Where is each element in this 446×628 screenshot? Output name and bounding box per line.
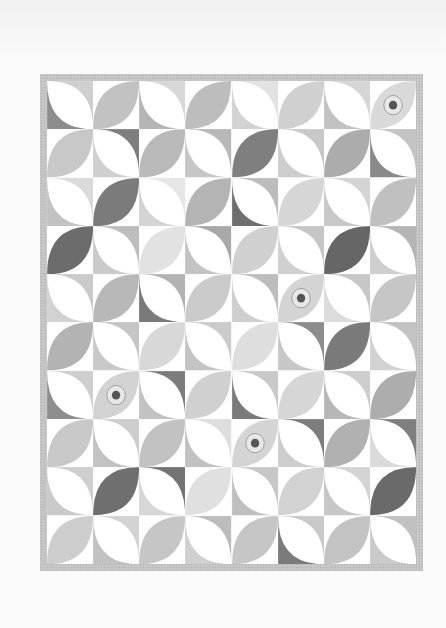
quilt-block	[93, 371, 139, 419]
petal-shape	[47, 226, 93, 274]
quilt-block	[370, 419, 416, 467]
petal-shape	[232, 419, 278, 467]
petal-shape	[93, 81, 139, 129]
petal-shape	[47, 129, 93, 177]
corner-triangles	[370, 419, 416, 467]
corner-triangles	[185, 419, 231, 467]
quilt-block	[93, 129, 139, 177]
corner-triangles	[185, 129, 231, 177]
quilt-block	[139, 178, 185, 226]
quilt-block	[139, 419, 185, 467]
petal-shape	[185, 178, 231, 226]
quilt-block	[185, 178, 231, 226]
quilt-block	[185, 371, 231, 419]
corner-triangles	[232, 81, 278, 129]
corner-triangles	[47, 81, 93, 129]
quilt-block	[232, 322, 278, 370]
corner-triangles	[185, 516, 231, 564]
quilt-block	[47, 129, 93, 177]
corner-triangles	[370, 129, 416, 177]
quilt-block	[185, 274, 231, 322]
quilt-block	[370, 274, 416, 322]
quilt-block	[47, 467, 93, 515]
quilt-block	[139, 81, 185, 129]
quilt-block	[47, 226, 93, 274]
petal-shape	[93, 371, 139, 419]
quilt-block	[139, 226, 185, 274]
quilt-block	[139, 129, 185, 177]
quilt-block	[278, 274, 324, 322]
petal-shape	[139, 129, 185, 177]
corner-triangles	[324, 467, 370, 515]
corner-triangles	[278, 419, 324, 467]
quilt-block	[370, 371, 416, 419]
corner-triangles	[139, 178, 185, 226]
petal-shape	[324, 322, 370, 370]
quilt-block	[232, 371, 278, 419]
quilt-block	[93, 274, 139, 322]
quilt-block	[47, 322, 93, 370]
quilt-block	[370, 81, 416, 129]
petal-shape	[324, 419, 370, 467]
petal-shape	[370, 467, 416, 515]
corner-triangles	[93, 129, 139, 177]
petal-shape	[139, 516, 185, 564]
quilt-block	[324, 81, 370, 129]
scan-shading	[0, 0, 446, 60]
quilt-block	[93, 467, 139, 515]
quilt-block	[93, 322, 139, 370]
corner-triangles	[324, 371, 370, 419]
quilt-block	[278, 81, 324, 129]
quilt-block	[93, 516, 139, 564]
quilt-block	[278, 371, 324, 419]
corner-triangles	[185, 226, 231, 274]
corner-triangles	[370, 516, 416, 564]
quilt-block	[278, 129, 324, 177]
petal-shape	[232, 129, 278, 177]
quilt-block	[370, 467, 416, 515]
quilt-block	[370, 226, 416, 274]
quilt-block	[324, 371, 370, 419]
corner-triangles	[370, 226, 416, 274]
corner-triangles	[278, 226, 324, 274]
corner-triangles	[93, 226, 139, 274]
petal-shape	[185, 81, 231, 129]
petal-shape	[93, 467, 139, 515]
quilt-block	[185, 516, 231, 564]
quilt-block	[47, 81, 93, 129]
petal-shape	[324, 516, 370, 564]
quilt-block	[232, 226, 278, 274]
quilt-block	[370, 129, 416, 177]
petal-shape	[278, 274, 324, 322]
petal-shape	[232, 226, 278, 274]
petal-shape	[139, 322, 185, 370]
corner-triangles	[47, 178, 93, 226]
corner-triangles	[324, 274, 370, 322]
quilt-block	[370, 322, 416, 370]
quilt-block	[139, 274, 185, 322]
quilt-block	[93, 81, 139, 129]
quilt-block	[232, 178, 278, 226]
corner-triangles	[232, 371, 278, 419]
petal-shape	[139, 226, 185, 274]
quilt-block	[232, 81, 278, 129]
petal-shape	[185, 274, 231, 322]
quilt-block	[93, 178, 139, 226]
quilt-block	[232, 274, 278, 322]
quilt-block	[139, 371, 185, 419]
quilt-block	[324, 419, 370, 467]
quilt-block	[278, 419, 324, 467]
petal-shape	[324, 129, 370, 177]
corner-triangles	[93, 516, 139, 564]
quilt-block	[185, 419, 231, 467]
corner-triangles	[232, 178, 278, 226]
corner-triangles	[278, 129, 324, 177]
petal-shape	[370, 81, 416, 129]
quilt-block	[232, 129, 278, 177]
petal-shape	[139, 419, 185, 467]
petal-shape	[278, 81, 324, 129]
petal-shape	[370, 178, 416, 226]
corner-triangles	[278, 322, 324, 370]
quilt-block	[47, 371, 93, 419]
quilt-block	[278, 516, 324, 564]
